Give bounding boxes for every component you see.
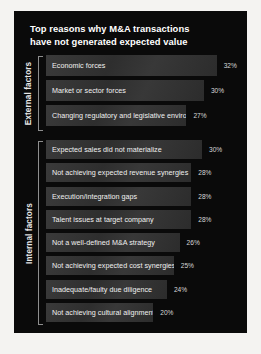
bar-value: 28% bbox=[198, 193, 211, 200]
bar-talent-issues-at-target-company[interactable]: Talent issues at target company bbox=[46, 210, 191, 229]
bar-economic-forces[interactable]: Economic forces bbox=[46, 55, 217, 76]
page-background: Top reasons why M&A transactions have no… bbox=[0, 0, 261, 354]
bar-label: Not a well-defined M&A strategy bbox=[52, 238, 155, 247]
bar-value: 27% bbox=[193, 112, 206, 119]
axis-label-internal: Internal factors bbox=[22, 140, 36, 326]
bar-value: 30% bbox=[209, 146, 222, 153]
bar-label: Inadequate/faulty due diligence bbox=[52, 285, 152, 294]
table-row[interactable]: Not achieving expected cost synergies 25… bbox=[46, 256, 241, 275]
bar-label: Execution/integration gaps bbox=[52, 192, 137, 201]
bar-value: 28% bbox=[198, 216, 211, 223]
title-line-1: Top reasons why M&A transactions bbox=[30, 22, 230, 35]
bar-value: 25% bbox=[181, 262, 194, 269]
group-bracket-internal bbox=[38, 141, 43, 325]
chart-group-internal: Internal factors Expected sales did not … bbox=[22, 140, 241, 326]
bar-value: 26% bbox=[187, 239, 200, 246]
table-row[interactable]: Not achieving cultural alignment 20% bbox=[46, 303, 241, 322]
chart-group-external: External factors Economic forces 32% Mar… bbox=[22, 55, 241, 132]
slide: Top reasons why M&A transactions have no… bbox=[14, 11, 247, 333]
bar-changing-regulatory-environment[interactable]: Changing regulatory and legislative envi… bbox=[46, 105, 186, 126]
page-title: Top reasons why M&A transactions have no… bbox=[30, 22, 230, 48]
table-row[interactable]: Economic forces 32% bbox=[46, 55, 241, 76]
table-row[interactable]: Talent issues at target company 28% bbox=[46, 210, 241, 229]
bar-value: 32% bbox=[224, 62, 237, 69]
bar-label: Not achieving expected revenue synergies bbox=[52, 168, 188, 177]
table-row[interactable]: Execution/integration gaps 28% bbox=[46, 187, 241, 206]
bar-label: Expected sales did not materialize bbox=[52, 145, 162, 154]
bar-label: Changing regulatory and legislative envi… bbox=[52, 111, 186, 120]
axis-label-external-text: External factors bbox=[25, 62, 34, 126]
bar-not-achieving-cultural-alignment[interactable]: Not achieving cultural alignment bbox=[46, 303, 153, 322]
bar-execution-integration-gaps[interactable]: Execution/integration gaps bbox=[46, 187, 191, 206]
axis-label-internal-text: Internal factors bbox=[25, 203, 34, 264]
table-row[interactable]: Expected sales did not materialize 30% bbox=[46, 140, 241, 159]
bar-label: Not achieving cultural alignment bbox=[52, 308, 153, 317]
bar-label: Market or sector forces bbox=[52, 86, 126, 95]
group-bracket-external bbox=[38, 56, 43, 131]
bar-value: 30% bbox=[211, 87, 224, 94]
bar-label: Talent issues at target company bbox=[52, 215, 154, 224]
bar-label: Economic forces bbox=[52, 61, 105, 70]
bar-not-achieving-cost-synergies[interactable]: Not achieving expected cost synergies bbox=[46, 256, 174, 275]
table-row[interactable]: Inadequate/faulty due diligence 24% bbox=[46, 280, 241, 299]
bar-label: Not achieving expected cost synergies bbox=[52, 261, 174, 270]
bar-expected-sales-did-not-materialize[interactable]: Expected sales did not materialize bbox=[46, 140, 202, 159]
bar-not-well-defined-ma-strategy[interactable]: Not a well-defined M&A strategy bbox=[46, 233, 180, 252]
bar-value: 28% bbox=[198, 169, 211, 176]
bar-value: 24% bbox=[174, 286, 187, 293]
table-row[interactable]: Changing regulatory and legislative envi… bbox=[46, 105, 241, 126]
bar-market-or-sector-forces[interactable]: Market or sector forces bbox=[46, 80, 204, 101]
table-row[interactable]: Market or sector forces 30% bbox=[46, 80, 241, 101]
table-row[interactable]: Not achieving expected revenue synergies… bbox=[46, 163, 241, 182]
axis-label-external: External factors bbox=[22, 55, 36, 132]
bar-inadequate-faulty-due-diligence[interactable]: Inadequate/faulty due diligence bbox=[46, 280, 167, 299]
title-line-2: have not generated expected value bbox=[30, 35, 230, 48]
bar-value: 20% bbox=[160, 309, 173, 316]
bar-not-achieving-revenue-synergies[interactable]: Not achieving expected revenue synergies bbox=[46, 163, 191, 182]
table-row[interactable]: Not a well-defined M&A strategy 26% bbox=[46, 233, 241, 252]
bar-list-external: Economic forces 32% Market or sector for… bbox=[46, 55, 241, 132]
bar-list-internal: Expected sales did not materialize 30% N… bbox=[46, 140, 241, 326]
